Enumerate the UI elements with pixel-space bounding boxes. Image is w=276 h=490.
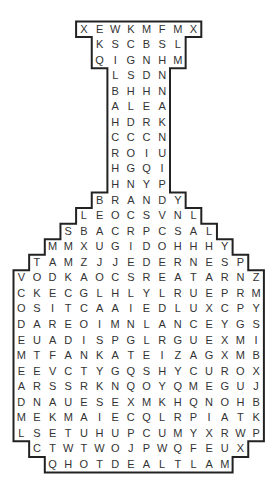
- letter-cell[interactable]: M: [14, 348, 30, 364]
- letter-cell[interactable]: Z: [248, 270, 264, 286]
- letter-cell[interactable]: E: [123, 255, 139, 271]
- letter-cell[interactable]: T: [233, 410, 249, 426]
- letter-cell[interactable]: O: [107, 208, 123, 224]
- letter-cell[interactable]: L: [123, 286, 139, 302]
- letter-cell[interactable]: H: [107, 115, 123, 131]
- letter-cell[interactable]: Q: [186, 395, 202, 411]
- letter-cell[interactable]: I: [154, 348, 170, 364]
- letter-cell[interactable]: O: [123, 146, 139, 162]
- letter-cell[interactable]: R: [45, 317, 61, 333]
- letter-cell[interactable]: F: [186, 441, 202, 457]
- letter-cell[interactable]: C: [29, 441, 45, 457]
- letter-cell[interactable]: L: [154, 410, 170, 426]
- letter-cell[interactable]: M: [170, 426, 186, 442]
- letter-cell[interactable]: C: [14, 286, 30, 302]
- letter-cell[interactable]: L: [154, 286, 170, 302]
- letter-cell[interactable]: R: [76, 379, 92, 395]
- letter-cell[interactable]: R: [107, 193, 123, 209]
- letter-cell[interactable]: C: [123, 130, 139, 146]
- letter-cell[interactable]: L: [170, 301, 186, 317]
- letter-cell[interactable]: M: [60, 255, 76, 271]
- letter-cell[interactable]: M: [233, 348, 249, 364]
- letter-cell[interactable]: D: [154, 301, 170, 317]
- letter-cell[interactable]: V: [45, 364, 61, 380]
- letter-cell[interactable]: U: [29, 333, 45, 349]
- letter-cell[interactable]: Y: [217, 317, 233, 333]
- letter-cell[interactable]: E: [201, 286, 217, 302]
- letter-cell[interactable]: A: [201, 457, 217, 473]
- letter-cell[interactable]: A: [154, 99, 170, 115]
- letter-cell[interactable]: A: [107, 99, 123, 115]
- letter-cell[interactable]: F: [45, 348, 61, 364]
- letter-cell[interactable]: U: [186, 286, 202, 302]
- letter-cell[interactable]: D: [139, 255, 155, 271]
- letter-cell[interactable]: H: [170, 395, 186, 411]
- letter-cell[interactable]: U: [201, 364, 217, 380]
- letter-cell[interactable]: S: [92, 333, 108, 349]
- letter-cell[interactable]: I: [92, 317, 108, 333]
- letter-cell[interactable]: D: [139, 239, 155, 255]
- letter-cell[interactable]: N: [29, 395, 45, 411]
- letter-cell[interactable]: A: [123, 193, 139, 209]
- letter-cell[interactable]: S: [139, 208, 155, 224]
- letter-cell[interactable]: L: [186, 208, 202, 224]
- letter-cell[interactable]: S: [107, 37, 123, 53]
- letter-cell[interactable]: Y: [139, 177, 155, 193]
- letter-cell[interactable]: C: [139, 130, 155, 146]
- letter-cell[interactable]: R: [217, 270, 233, 286]
- letter-cell[interactable]: L: [170, 37, 186, 53]
- letter-cell[interactable]: S: [217, 255, 233, 271]
- letter-cell[interactable]: Q: [123, 379, 139, 395]
- letter-cell[interactable]: G: [233, 317, 249, 333]
- letter-cell[interactable]: Y: [217, 239, 233, 255]
- letter-cell[interactable]: Q: [139, 161, 155, 177]
- letter-cell[interactable]: T: [29, 255, 45, 271]
- letter-cell[interactable]: O: [233, 364, 249, 380]
- letter-cell[interactable]: N: [201, 395, 217, 411]
- letter-cell[interactable]: E: [201, 317, 217, 333]
- letter-cell[interactable]: K: [154, 115, 170, 131]
- letter-cell[interactable]: Z: [170, 348, 186, 364]
- letter-cell[interactable]: X: [76, 239, 92, 255]
- letter-cell[interactable]: X: [201, 426, 217, 442]
- letter-cell[interactable]: C: [123, 208, 139, 224]
- letter-cell[interactable]: C: [60, 364, 76, 380]
- letter-cell[interactable]: M: [60, 239, 76, 255]
- letter-cell[interactable]: S: [29, 301, 45, 317]
- letter-cell[interactable]: T: [92, 457, 108, 473]
- letter-cell[interactable]: X: [186, 22, 202, 38]
- letter-cell[interactable]: D: [123, 115, 139, 131]
- letter-cell[interactable]: C: [60, 286, 76, 302]
- letter-cell[interactable]: O: [29, 270, 45, 286]
- letter-cell[interactable]: A: [76, 410, 92, 426]
- letter-cell[interactable]: X: [123, 395, 139, 411]
- letter-cell[interactable]: J: [123, 441, 139, 457]
- letter-cell[interactable]: M: [14, 410, 30, 426]
- letter-cell[interactable]: N: [139, 53, 155, 69]
- letter-cell[interactable]: E: [76, 395, 92, 411]
- letter-cell[interactable]: H: [107, 177, 123, 193]
- letter-cell[interactable]: S: [45, 379, 61, 395]
- letter-cell[interactable]: T: [60, 301, 76, 317]
- letter-cell[interactable]: C: [107, 130, 123, 146]
- letter-cell[interactable]: D: [45, 270, 61, 286]
- letter-cell[interactable]: U: [107, 426, 123, 442]
- letter-cell[interactable]: I: [139, 146, 155, 162]
- letter-cell[interactable]: P: [233, 255, 249, 271]
- letter-cell[interactable]: I: [154, 161, 170, 177]
- letter-cell[interactable]: I: [201, 410, 217, 426]
- letter-cell[interactable]: E: [60, 317, 76, 333]
- letter-cell[interactable]: C: [76, 301, 92, 317]
- letter-cell[interactable]: R: [139, 115, 155, 131]
- letter-cell[interactable]: X: [248, 364, 264, 380]
- letter-cell[interactable]: H: [107, 286, 123, 302]
- letter-cell[interactable]: N: [154, 68, 170, 84]
- letter-cell[interactable]: P: [233, 301, 249, 317]
- letter-cell[interactable]: R: [139, 270, 155, 286]
- letter-cell[interactable]: I: [92, 410, 108, 426]
- letter-cell[interactable]: A: [45, 255, 61, 271]
- letter-cell[interactable]: W: [233, 426, 249, 442]
- letter-cell[interactable]: P: [248, 426, 264, 442]
- letter-cell[interactable]: Y: [139, 286, 155, 302]
- letter-cell[interactable]: A: [170, 270, 186, 286]
